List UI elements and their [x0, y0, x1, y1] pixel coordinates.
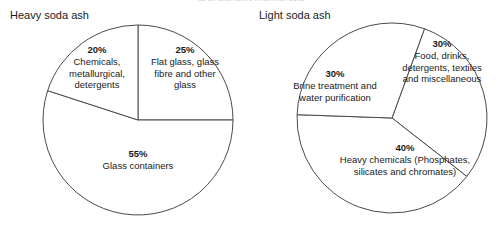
- pie-chart-light: [251, 0, 503, 233]
- pie-label-heavy-chemicals: 20% Chemicals, metallurgical, detergents: [58, 44, 136, 91]
- pie-chart-heavy: [0, 0, 251, 233]
- pie-label-light-brine-treatment-pct: 30%: [293, 68, 377, 80]
- pie-label-light-heavy-chemicals: 40% Heavy chemicals (Phosphates, silicat…: [337, 142, 473, 177]
- pie-label-light-brine-treatment-desc: Brine treatment and water purification: [293, 80, 377, 103]
- pie-label-light-heavy-chemicals-pct: 40%: [337, 142, 473, 154]
- pie-label-heavy-flat-glass-pct: 25%: [142, 44, 228, 56]
- pie-panel-heavy-soda-ash: Heavy soda ash 20% Chemicals, metallurgi…: [0, 0, 251, 233]
- pie-label-heavy-chemicals-pct: 20%: [58, 44, 136, 56]
- pie-label-heavy-glass-containers: 55% Glass containers: [96, 148, 180, 172]
- pie-label-light-brine-treatment: 30% Brine treatment and water purificati…: [293, 68, 377, 103]
- pie-label-light-food-drinks: 30% Food, drinks, detergents, textiles a…: [395, 38, 489, 85]
- pie-label-heavy-chemicals-desc: Chemicals, metallurgical, detergents: [58, 56, 136, 91]
- pie-label-light-food-drinks-desc: Food, drinks, detergents, textiles and m…: [395, 50, 489, 85]
- figure-root: as an alternative in animal feeds Heavy …: [0, 0, 503, 233]
- pie-label-heavy-flat-glass-desc: Flat glass, glass fibre and other glass: [142, 56, 228, 91]
- pie-label-light-food-drinks-pct: 30%: [395, 38, 489, 50]
- pie-label-light-heavy-chemicals-desc: Heavy chemicals (Phosphates, silicates a…: [337, 154, 473, 177]
- pie-label-heavy-glass-containers-pct: 55%: [96, 148, 180, 160]
- pie-label-heavy-flat-glass: 25% Flat glass, glass fibre and other gl…: [142, 44, 228, 91]
- pie-label-heavy-glass-containers-desc: Glass containers: [96, 160, 180, 172]
- pie-panel-light-soda-ash: Light soda ash 30% Food, drinks, deterge…: [251, 0, 503, 233]
